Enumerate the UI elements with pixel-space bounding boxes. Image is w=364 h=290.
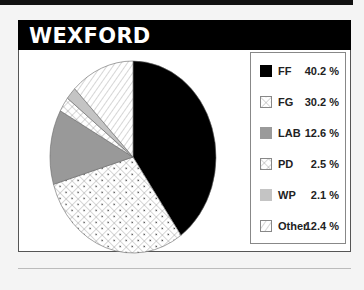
legend-item-pd: PD 2.5 %: [251, 155, 347, 175]
legend-item-wp: WP 2.1 %: [251, 186, 347, 206]
pie-slices: [50, 61, 216, 253]
legend-label: PD: [278, 158, 293, 170]
swatch-diagonal-hatch-icon: [260, 220, 272, 232]
legend-label: FF: [278, 65, 291, 77]
swatch-solid-black-icon: [260, 65, 272, 77]
divider: [18, 268, 351, 269]
swatch-solid-gray-icon: [260, 127, 272, 139]
legend-item-other: Other 12.4 %: [251, 217, 347, 237]
legend-value: 12.4 %: [305, 220, 339, 232]
swatch-crosshatch-dotted-icon: [260, 96, 272, 108]
legend-value: 2.5 %: [311, 158, 339, 170]
legend-label: Other: [278, 220, 307, 232]
legend-label: LAB: [278, 127, 301, 139]
swatch-solid-lightgray-icon: [260, 189, 272, 201]
legend-item-lab: LAB 12.6 %: [251, 124, 347, 144]
legend-item-fg: FG 30.2 %: [251, 93, 347, 113]
legend: FF 40.2 % FG 30.2 % LAB 12.6 % PD 2.5 % …: [250, 52, 346, 244]
legend-value: 2.1 %: [311, 189, 339, 201]
legend-value: 30.2 %: [305, 96, 339, 108]
legend-label: FG: [278, 96, 293, 108]
legend-value: 12.6 %: [305, 127, 339, 139]
legend-label: WP: [278, 189, 296, 201]
swatch-crosshatch-icon: [260, 158, 272, 170]
legend-item-ff: FF 40.2 %: [251, 62, 347, 82]
legend-value: 40.2 %: [305, 65, 339, 77]
